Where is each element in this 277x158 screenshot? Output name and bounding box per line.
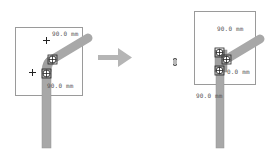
left-dimension-bottom: 90.0 mm (47, 82, 74, 89)
right-dimension-bottom: 90.0 mm (196, 92, 223, 99)
transform-arrow-icon (98, 48, 132, 67)
left-crosshair-top (43, 37, 50, 44)
right-dimension-top: 90.0 mm (217, 25, 244, 32)
left-pipe-bend (0, 0, 140, 158)
left-crosshair-left (29, 69, 36, 76)
right-pipe-bend (140, 0, 277, 158)
right-dimension-middle: 0.0 mm (227, 68, 250, 75)
left-dimension-top: 90.0 mm (52, 30, 79, 37)
